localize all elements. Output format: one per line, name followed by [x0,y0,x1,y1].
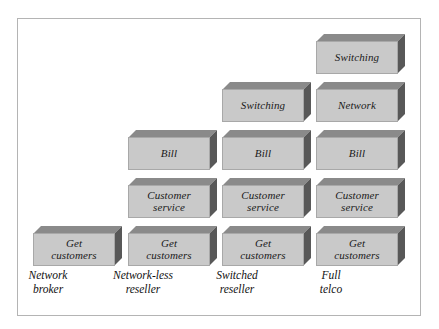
block[interactable]: Bill [316,130,398,170]
block-label-line: Customer [335,190,379,202]
block-front-face: Customerservice [128,185,210,218]
block-label-line: Get [255,238,271,250]
block-label-line: service [247,202,279,214]
block-stack-column-1: Getcustomers [33,218,123,266]
column-caption-4: Fulltelco [276,268,386,297]
block-label-line: service [153,202,185,214]
block-front-face: Switching [316,41,398,74]
block-front-face: Getcustomers [128,233,210,266]
block-front-face: Customerservice [222,185,304,218]
block-front-face: Getcustomers [316,233,398,266]
block-front-face: Network [316,89,398,122]
block-front-face: Bill [128,137,210,170]
column-caption-line: Full [276,268,386,282]
block[interactable]: Bill [222,130,304,170]
block-label-line: Customer [147,190,191,202]
block-label-line: Network [338,100,376,112]
block-stack-column-4: GetcustomersCustomerserviceBillNetworkSw… [316,26,406,266]
block-front-face: Getcustomers [222,233,304,266]
block-label-line: customers [240,250,286,262]
block-front-face: Bill [316,137,398,170]
block-front-face: Customerservice [316,185,398,218]
block[interactable]: Customerservice [222,178,304,218]
block[interactable]: Switching [316,34,398,74]
block-front-face: Getcustomers [33,233,115,266]
block[interactable]: Getcustomers [222,226,304,266]
block-label-line: Bill [349,148,365,160]
block[interactable]: Network [316,82,398,122]
block-label-line: Bill [161,148,177,160]
block-label-line: Get [66,238,82,250]
block-label-line: Bill [255,148,271,160]
block-label-line: Switching [335,52,379,64]
block-label-line: customers [51,250,97,262]
block[interactable]: Getcustomers [128,226,210,266]
block-label-line: service [341,202,373,214]
block[interactable]: Getcustomers [33,226,115,266]
block-stack-column-2: GetcustomersCustomerserviceBill [128,122,218,266]
block-label-line: Get [349,238,365,250]
block[interactable]: Switching [222,82,304,122]
figure-canvas: GetcustomersNetworkbrokerGetcustomersCus… [0,0,439,329]
block-columns-area: GetcustomersNetworkbrokerGetcustomersCus… [0,0,439,329]
block-stack-column-3: GetcustomersCustomerserviceBillSwitching [222,74,312,266]
column-caption-line: telco [276,282,386,296]
block-label-line: customers [334,250,380,262]
block-label-line: Switching [241,100,285,112]
block[interactable]: Customerservice [128,178,210,218]
block[interactable]: Bill [128,130,210,170]
block-label-line: Get [161,238,177,250]
block-front-face: Bill [222,137,304,170]
block-label-line: customers [146,250,192,262]
block[interactable]: Getcustomers [316,226,398,266]
block[interactable]: Customerservice [316,178,398,218]
block-front-face: Switching [222,89,304,122]
block-label-line: Customer [241,190,285,202]
